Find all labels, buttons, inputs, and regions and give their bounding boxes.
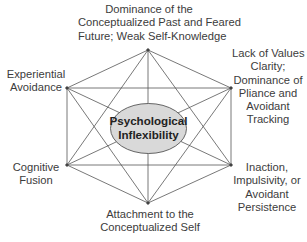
label-bottom-right-line: Inaction, <box>228 161 306 174</box>
label-top-right-line: Lack of Values <box>232 47 304 60</box>
label-bottom-left-line: Cognitive <box>6 161 66 174</box>
label-bottom-left-line: Fusion <box>6 174 66 187</box>
label-bottom: Attachment to the Conceptualized Self <box>95 208 205 235</box>
label-top-line: Future; Weak Self-Knowledge <box>78 30 220 43</box>
node-dot-top <box>147 49 150 52</box>
label-top-left-line: Avoidance <box>4 81 68 94</box>
node-dot-bottom-left <box>66 164 69 167</box>
label-top-right-line: Dominance of <box>232 74 304 87</box>
label-bottom-right: Inaction, Impulsivity, or Avoidant Persi… <box>228 161 306 214</box>
label-top-line: Conceptualized Past and Feared <box>78 16 220 29</box>
label-bottom-right-line: Avoidant <box>228 188 306 201</box>
center-label: Psychological Inflexibility <box>108 114 189 142</box>
label-top-right-line: Avoidant <box>232 100 304 113</box>
label-top-line: Dominance of the <box>78 3 220 16</box>
edge-top-top-right <box>148 50 231 88</box>
edge-bottom-right-bottom <box>148 165 231 203</box>
label-bottom-left: Cognitive Fusion <box>6 161 66 188</box>
label-top-right-line: Clarity; <box>232 60 304 73</box>
label-top-right: Lack of Values Clarity; Dominance of Pli… <box>232 47 304 127</box>
center-label-line2: Inflexibility <box>108 128 189 142</box>
label-top-left-line: Experiential <box>4 68 68 81</box>
label-top: Dominance of the Conceptualized Past and… <box>78 3 220 43</box>
label-bottom-line: Attachment to the <box>95 208 205 221</box>
label-bottom-right-line: Impulsivity, or <box>228 174 306 187</box>
label-top-right-line: Tracking <box>232 113 304 126</box>
edge-bottom-bottom-left <box>67 165 148 203</box>
node-dot-bottom <box>147 202 150 205</box>
label-bottom-right-line: Persistence <box>228 201 306 214</box>
edge-top-top-left <box>67 50 148 88</box>
label-top-right-line: Pliance and <box>232 87 304 100</box>
label-bottom-line: Conceptualized Self <box>95 221 205 234</box>
label-top-left: Experiential Avoidance <box>4 68 68 95</box>
center-label-line1: Psychological <box>108 114 189 128</box>
